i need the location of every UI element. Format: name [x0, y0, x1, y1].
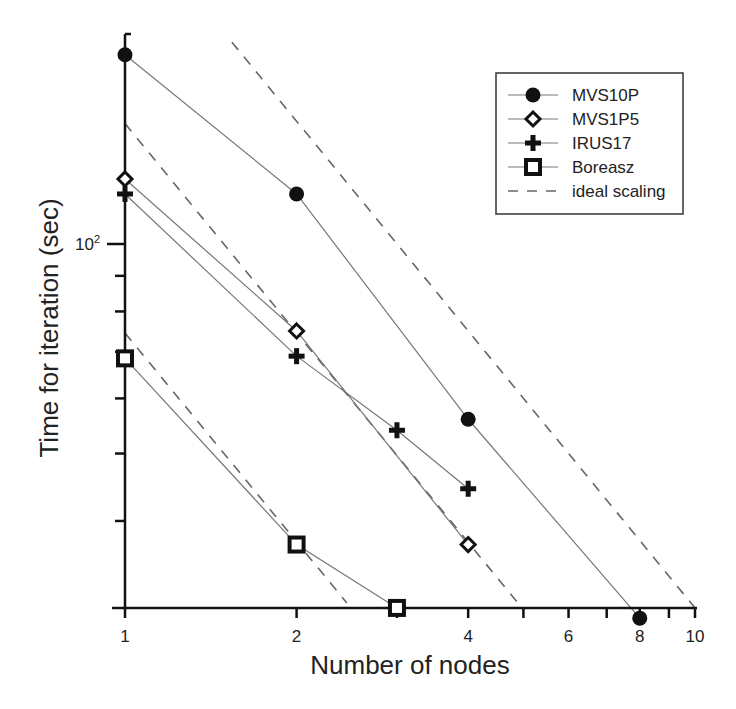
y-axis-title: Time for iteration (sec) — [34, 198, 64, 457]
legend-item-boreasz: Boreasz — [508, 158, 634, 177]
x-axis-title: Number of nodes — [310, 650, 509, 680]
x-tick-label: 10 — [686, 627, 705, 646]
legend-label: IRUS17 — [572, 134, 632, 153]
marker-boreasz — [118, 351, 132, 365]
marker-mvs1p5 — [461, 538, 475, 552]
y-tick-label: 102 — [75, 233, 100, 254]
scaling-chart: 1246810 102 Number of nodes Time for ite… — [0, 0, 736, 709]
legend-label: Boreasz — [572, 158, 634, 177]
x-tick-label: 2 — [292, 627, 301, 646]
series-line-irus17 — [125, 194, 468, 489]
open-square-icon — [526, 160, 540, 174]
ideal-scaling-line — [125, 123, 522, 607]
series-line-boreasz — [125, 358, 397, 608]
x-tick-label: 6 — [564, 627, 573, 646]
marker-irus17 — [460, 481, 476, 497]
legend: MVS10PMVS1P5IRUS17Boreaszideal scaling — [496, 73, 683, 214]
legend-label: MVS1P5 — [572, 110, 639, 129]
marker-mvs10p — [632, 611, 647, 626]
marker-mvs10p — [289, 186, 304, 201]
legend-label: ideal scaling — [572, 182, 666, 201]
marker-boreasz — [290, 538, 304, 552]
x-tick-label: 4 — [463, 627, 472, 646]
x-ticks: 1246810 — [120, 608, 704, 646]
x-tick-label: 8 — [635, 627, 644, 646]
marker-boreasz — [390, 601, 404, 615]
filled-circle-icon — [526, 88, 541, 103]
ideal-scaling-line — [125, 333, 347, 603]
marker-mvs10p — [118, 47, 133, 62]
marker-mvs10p — [461, 412, 476, 427]
legend-label: MVS10P — [572, 86, 639, 105]
x-tick-label: 1 — [120, 627, 129, 646]
y-ticks: 102 — [75, 233, 125, 521]
marker-irus17 — [389, 422, 405, 438]
